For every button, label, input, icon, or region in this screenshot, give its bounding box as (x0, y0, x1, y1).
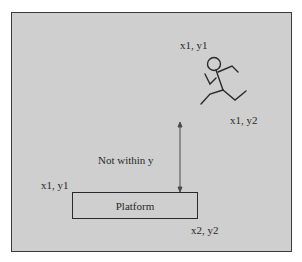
running-stick-figure-icon (201, 58, 246, 105)
gap-arrow (178, 122, 182, 192)
character-top-label: x1, y1 (180, 40, 208, 51)
character-bottom-label: x1, y2 (230, 115, 258, 126)
platform-bottom-right-label: x2, y2 (191, 225, 219, 236)
platform-box: Platform (72, 192, 198, 219)
gap-arrow-label: Not within y (98, 155, 154, 166)
platform-label: Platform (116, 200, 155, 212)
diagram-drawing (0, 0, 302, 262)
platform-top-left-label: x1, y1 (41, 180, 69, 191)
